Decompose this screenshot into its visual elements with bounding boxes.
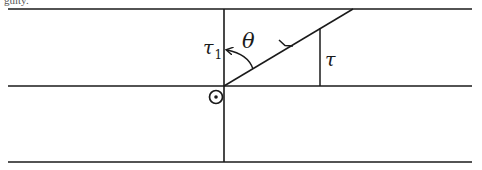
theta-label: θ (242, 31, 255, 52)
tau1-subscript: 1 (215, 48, 223, 62)
out-of-page-icon (210, 91, 223, 104)
tau1-label: τ1 (203, 38, 221, 57)
ray-arrow-icon (279, 40, 293, 46)
diagram-canvas: guity. θ τ1 τ (0, 0, 482, 170)
tau-label: τ (325, 50, 336, 69)
diagram-svg (0, 0, 482, 170)
tau1-symbol: τ (203, 36, 214, 58)
